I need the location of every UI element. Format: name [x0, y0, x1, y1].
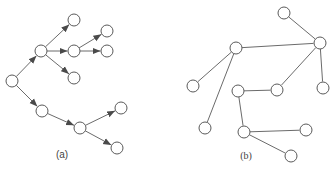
edge	[250, 130, 300, 132]
tree-node-b	[36, 105, 48, 117]
panel-a-label: (a)	[56, 149, 68, 160]
tree-node-b1b	[111, 142, 123, 154]
tree-node-mid	[271, 84, 283, 96]
panel-a-directed-tree: (a)	[6, 14, 127, 160]
edge	[281, 47, 316, 85]
directed-edge	[79, 34, 101, 48]
tree-node-a2	[68, 45, 80, 57]
directed-edge	[45, 24, 69, 46]
edge	[289, 17, 315, 39]
edge	[198, 52, 232, 82]
tree-node-a2a	[101, 25, 113, 37]
tree-node-m	[232, 85, 244, 97]
tree-node-top	[278, 7, 290, 19]
panel-a-nodes	[6, 14, 127, 154]
tree-node-hub	[314, 37, 326, 49]
panel-b-undirected-tree: (b)	[187, 7, 329, 162]
tree-node-left	[230, 42, 242, 54]
edge	[207, 54, 233, 122]
edge	[249, 135, 285, 153]
tree-node-mr	[300, 124, 312, 136]
tree-node-a2b	[101, 45, 113, 57]
tree-node-leftbottom	[199, 122, 211, 134]
tree-node-root	[6, 75, 18, 87]
tree-node-hubleaf	[317, 82, 329, 94]
directed-edge	[47, 113, 74, 125]
panel-a-edges	[16, 24, 115, 144]
tree-node-a3	[68, 72, 80, 84]
tree-node-b1	[74, 122, 86, 134]
edge	[242, 43, 314, 47]
edge	[244, 90, 271, 91]
panel-b-label: (b)	[240, 150, 252, 162]
edge	[320, 49, 322, 82]
directed-edge	[16, 56, 36, 77]
directed-edge	[16, 85, 37, 106]
tree-node-mbr	[285, 150, 297, 162]
tree-node-leftleaf	[187, 80, 199, 92]
tree-node-a	[35, 45, 47, 57]
tree-diagram-figure: (a) (b)	[0, 0, 335, 176]
directed-edge	[85, 131, 111, 145]
tree-node-mb	[238, 126, 250, 138]
tree-node-b1a	[115, 102, 127, 114]
directed-edge	[85, 111, 115, 126]
directed-edge	[46, 55, 69, 74]
edge	[239, 97, 243, 126]
tree-node-a1	[68, 14, 80, 26]
